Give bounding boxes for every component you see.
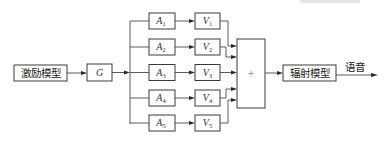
arrow-head [277, 71, 283, 75]
arrow-head [231, 44, 237, 48]
wire-v5-to-summer [220, 100, 233, 123]
arrow-head [189, 45, 195, 49]
arrow-head [124, 71, 130, 75]
arrow-head [231, 87, 237, 91]
arrow-head [189, 19, 195, 23]
arrow-head [231, 71, 237, 75]
arrow-head [189, 71, 195, 75]
cropped-text-fragment [300, 0, 360, 3]
arrow-head [81, 71, 87, 75]
summer-label: + [248, 68, 254, 79]
arrow-head [189, 121, 195, 125]
radiation-model-label: 辐射模型 [290, 67, 330, 79]
parallel-branches: A1V1A2V2A3V3A4V4A5V5 [130, 13, 237, 131]
excitation-model-label: 激励模型 [21, 67, 61, 79]
arrow-head [231, 98, 237, 102]
speech-synthesis-diagram: 激励模型 G A1V1A2V2A3V3A4V4A5V5 + 辐射模型 语音 [0, 0, 385, 146]
gain-label: G [96, 67, 103, 78]
wire-v1-to-summer [220, 21, 233, 46]
arrow-head [231, 55, 237, 59]
arrow-head [189, 96, 195, 100]
output-speech-label: 语音 [345, 61, 365, 73]
output-arrow-head [371, 73, 378, 77]
